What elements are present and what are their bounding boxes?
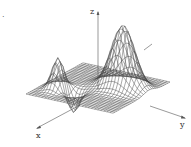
wireframe-surface-plot (0, 0, 191, 147)
x-axis-label: x (36, 132, 41, 140)
y-axis (150, 106, 185, 118)
z-axis-arrow-icon (97, 11, 100, 15)
ridge-tick (144, 44, 152, 50)
y-axis-arrow-icon (181, 116, 186, 119)
y-axis-label: y (180, 121, 185, 129)
x-axis (37, 105, 80, 128)
z-axis-label: z (90, 8, 94, 16)
